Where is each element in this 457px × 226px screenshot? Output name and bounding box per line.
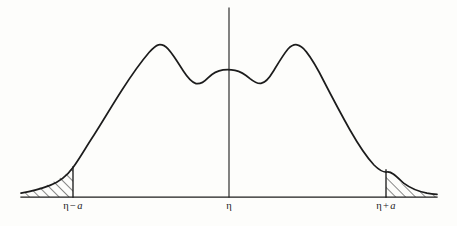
- x-tick-left-operator: −: [70, 200, 76, 211]
- density-plot-svg: [0, 0, 457, 226]
- x-tick-right-eta: η: [376, 200, 382, 211]
- x-tick-left-param: a: [77, 200, 82, 211]
- x-tick-center-eta: η: [226, 200, 232, 211]
- figure-container: η−a η η+a: [0, 0, 457, 226]
- x-tick-label-center: η: [226, 200, 232, 211]
- x-tick-label-right: η+a: [376, 200, 395, 211]
- x-tick-left-eta: η: [63, 200, 69, 211]
- x-tick-right-param: a: [390, 200, 395, 211]
- x-tick-label-left: η−a: [63, 200, 82, 211]
- x-tick-right-operator: +: [383, 200, 389, 211]
